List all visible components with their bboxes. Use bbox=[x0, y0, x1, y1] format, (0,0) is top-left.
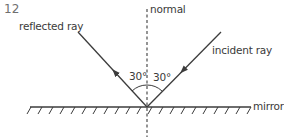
reflected-ray-label: reflected ray bbox=[19, 20, 83, 32]
reflection-angle-arc bbox=[132, 85, 147, 91]
angle-of-reflection-label: 30° bbox=[129, 70, 147, 82]
normal-label: normal bbox=[150, 3, 186, 15]
incident-ray bbox=[147, 32, 221, 107]
incident-ray-label: incident ray bbox=[212, 44, 272, 56]
mirror-hatching bbox=[27, 107, 251, 114]
incidence-angle-arc bbox=[147, 85, 162, 91]
angle-of-incidence-label: 30° bbox=[153, 71, 171, 83]
mirror-label: mirror bbox=[253, 100, 284, 112]
